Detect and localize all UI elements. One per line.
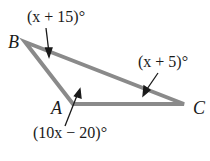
angle-a-label: (10x − 20)° <box>33 125 107 141</box>
vertex-c-label: C <box>193 99 205 117</box>
angle-b-label: (x + 15)° <box>27 9 85 25</box>
vertex-a-label: A <box>51 99 62 117</box>
angle-c-label: (x + 5)° <box>138 54 188 70</box>
vertex-b-label: B <box>8 33 19 51</box>
angle-pointer-arrows <box>46 28 159 126</box>
